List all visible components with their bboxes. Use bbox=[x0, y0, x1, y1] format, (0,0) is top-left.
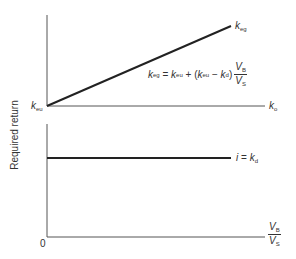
vs-main: V bbox=[269, 235, 276, 246]
frac-num-main: V bbox=[235, 61, 242, 72]
frac-num-sub: B bbox=[242, 67, 246, 73]
frac-den-sub: S bbox=[242, 81, 246, 87]
formula-close: ) bbox=[229, 70, 232, 80]
i-eq: = bbox=[238, 152, 249, 163]
diagram-canvas bbox=[0, 0, 296, 259]
ko-sub: o bbox=[274, 106, 277, 112]
formula-fraction: VB VS bbox=[234, 62, 247, 87]
vb-main: V bbox=[269, 221, 276, 232]
keu-sub: eu bbox=[36, 106, 43, 112]
formula: keg = keu + ( keu − kd ) VB VS bbox=[148, 62, 247, 87]
formula-t2-sub: eu bbox=[203, 72, 210, 78]
lower-origin-label: 0 bbox=[40, 239, 46, 249]
upper-origin-label: keu bbox=[31, 101, 43, 112]
kd-line-label: i = kd bbox=[236, 153, 258, 164]
formula-fraction-num: VB bbox=[234, 62, 247, 75]
keg-label-sub: eg bbox=[240, 26, 247, 32]
kd-sub: d bbox=[255, 158, 258, 164]
vs-sub: S bbox=[276, 241, 280, 247]
formula-lhs-sub: eg bbox=[153, 72, 160, 78]
formula-plus: + ( bbox=[183, 70, 198, 80]
lower-x-axis-label: VB VS bbox=[268, 222, 281, 247]
formula-fraction-den: VS bbox=[235, 75, 246, 87]
keg-line-label: keg bbox=[235, 21, 247, 32]
frac-den-main: V bbox=[235, 75, 242, 86]
formula-eq: = bbox=[160, 70, 171, 80]
vb-vs-den: VS bbox=[269, 235, 280, 247]
vb-sub: B bbox=[276, 227, 280, 233]
formula-minus: − bbox=[209, 70, 220, 80]
formula-t1-sub: eu bbox=[176, 72, 183, 78]
vb-vs-num: VB bbox=[268, 222, 281, 235]
upper-x-axis-label: ko bbox=[269, 101, 277, 112]
vb-vs-fraction: VB VS bbox=[268, 222, 281, 247]
y-axis-label: Required return bbox=[9, 100, 20, 169]
